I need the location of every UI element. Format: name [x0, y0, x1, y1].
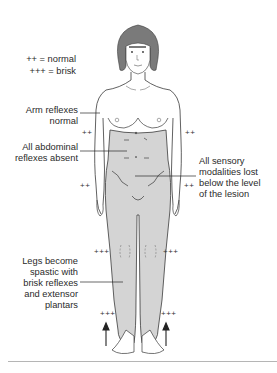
legend-normal: ++ = normal — [20, 54, 76, 65]
reflex-mark-ankle-right: +++ — [161, 309, 177, 318]
legend-brisk: +++ = brisk — [20, 66, 76, 77]
legs-spastic-label: Legs become spastic with brisk reflexes … — [6, 256, 78, 311]
reflex-mark-knee-left: +++ — [94, 247, 110, 256]
spinal-lesion-diagram: ++ = normal +++ = brisk Arm reflexes nor… — [0, 0, 277, 373]
bottom-divider — [8, 361, 277, 362]
reflex-mark-knee-right: +++ — [163, 247, 179, 256]
sensory-loss-label: All sensory modalities lost below the le… — [199, 156, 277, 200]
abdominal-reflexes-label: All abdominal reflexes absent — [8, 142, 78, 164]
reflex-mark-ankle-left: +++ — [100, 309, 116, 318]
up-arrow-icon — [103, 323, 169, 346]
arm-reflexes-label: Arm reflexes normal — [10, 105, 78, 127]
reflex-mark-biceps-right: ++ — [185, 128, 195, 137]
reflex-mark-biceps-left: ++ — [82, 128, 92, 137]
reflex-mark-wrist-left: ++ — [80, 181, 90, 190]
reflex-mark-wrist-right: ++ — [184, 181, 194, 190]
